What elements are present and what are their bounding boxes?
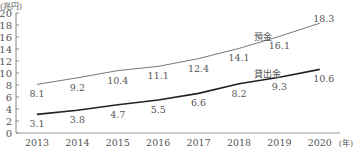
data-label: 3.1	[29, 118, 44, 129]
y-tick-label: 6	[6, 92, 12, 103]
x-tick-label: 2014	[65, 137, 89, 148]
data-label: 18.3	[313, 13, 334, 24]
y-axis-unit: (兆円)	[0, 1, 22, 11]
y-tick-label: 10	[0, 68, 12, 79]
y-tick-label: 8	[6, 80, 12, 91]
y-tick-label: 4	[6, 104, 12, 115]
data-label: 10.6	[313, 73, 334, 84]
data-label: 12.4	[188, 63, 209, 74]
data-label: 16.1	[269, 40, 290, 51]
y-tick-label: 2	[6, 116, 12, 127]
data-label: 5.5	[151, 104, 166, 115]
x-tick-label: 2015	[106, 137, 130, 148]
y-tick-label: 12	[0, 56, 12, 67]
data-label: 14.1	[228, 52, 249, 63]
x-tick-label: 2020	[308, 137, 332, 148]
y-tick-label: 18	[0, 20, 12, 31]
data-label: 9.2	[70, 82, 85, 93]
chart-canvas: 02468101214161820(兆円)2013201420152016201…	[0, 0, 356, 149]
data-label: 8.1	[29, 88, 44, 99]
data-label: 11.1	[148, 70, 169, 81]
data-label: 6.6	[191, 97, 206, 108]
y-tick-label: 14	[0, 44, 12, 55]
x-axis-unit: (年)	[339, 138, 353, 148]
y-tick-label: 0	[6, 128, 12, 139]
data-label: 3.8	[70, 114, 85, 125]
y-tick-label: 16	[0, 32, 12, 43]
x-tick-label: 2013	[25, 137, 49, 148]
legend-loans: 貸出金	[254, 68, 281, 79]
data-label: 10.4	[107, 75, 128, 86]
data-label: 4.7	[110, 109, 125, 120]
x-tick-label: 2019	[267, 137, 291, 148]
line-chart: 02468101214161820(兆円)2013201420152016201…	[0, 0, 356, 149]
x-tick-label: 2016	[146, 137, 170, 148]
data-label: 9.3	[272, 81, 287, 92]
legend-deposits: 預金	[254, 31, 272, 42]
data-label: 8.2	[231, 88, 246, 99]
x-tick-label: 2018	[227, 137, 251, 148]
x-tick-label: 2017	[187, 137, 211, 148]
